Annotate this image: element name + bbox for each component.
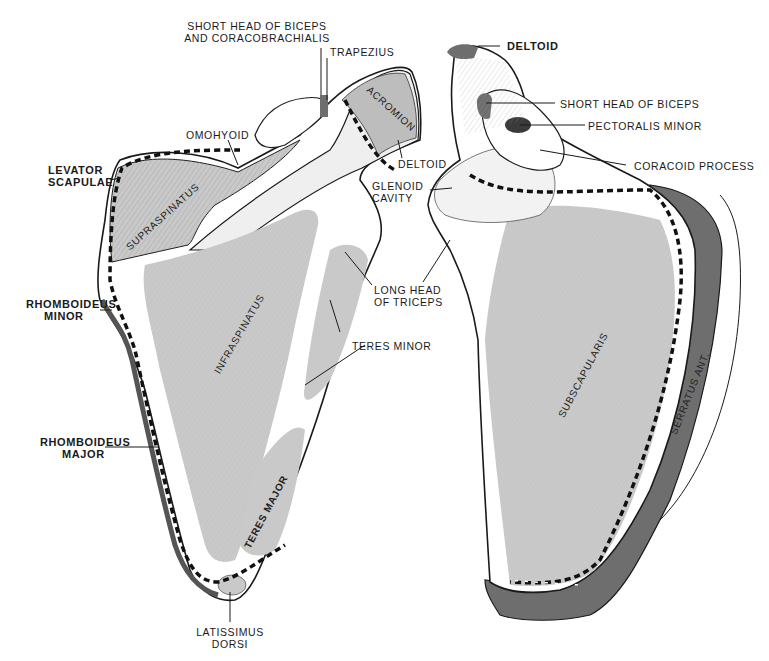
label-line: GLENOID — [372, 180, 423, 192]
label-rhomboideus-major: RHOMBOIDEUS MAJOR — [40, 436, 130, 460]
label-pectoralis-minor: PECTORALIS MINOR — [588, 120, 702, 132]
label-deltoid-anterior: DELTOID — [507, 40, 558, 52]
label-line: DORSI — [190, 638, 270, 650]
label-long-head-triceps: LONG HEAD OF TRICEPS — [374, 284, 443, 308]
latissimus-dorsi-region — [218, 575, 246, 595]
label-line: RHOMBOIDEUS — [26, 298, 116, 310]
label-rhomboideus-minor: RHOMBOIDEUS MINOR — [26, 298, 116, 322]
label-deltoid-posterior: DELTOID — [398, 158, 447, 170]
label-line: OF TRICEPS — [374, 296, 443, 308]
label-line: SHORT HEAD OF BICEPS — [182, 20, 332, 32]
label-line: LATISSIMUS — [190, 626, 270, 638]
label-line: LONG HEAD — [374, 284, 443, 296]
label-line: MAJOR — [40, 448, 130, 460]
label-coracoid-process: CORACOID PROCESS — [634, 160, 754, 172]
label-line: AND CORACOBRACHIALIS — [182, 32, 332, 44]
label-line: SCAPULAE — [48, 176, 113, 188]
label-short-head-biceps-coracobrachialis: SHORT HEAD OF BICEPS AND CORACOBRACHIALI… — [182, 20, 332, 44]
label-line: LEVATOR — [48, 164, 113, 176]
label-trapezius: TRAPEZIUS — [330, 46, 394, 58]
label-short-head-biceps: SHORT HEAD OF BICEPS — [560, 98, 699, 110]
label-line: CAVITY — [372, 192, 423, 204]
label-line: RHOMBOIDEUS — [40, 436, 130, 448]
label-line: MINOR — [26, 310, 116, 322]
label-teres-minor: TERES MINOR — [352, 340, 432, 352]
label-glenoid-cavity: GLENOID CAVITY — [372, 180, 423, 204]
label-latissimus-dorsi: LATISSIMUS DORSI — [190, 626, 270, 650]
label-omohyoid: OMOHYOID — [186, 129, 249, 141]
label-levator-scapulae: LEVATOR SCAPULAE — [48, 164, 113, 188]
